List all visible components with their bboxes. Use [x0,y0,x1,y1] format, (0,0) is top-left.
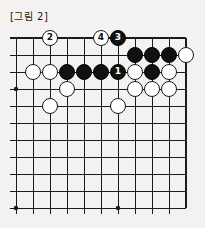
star-point [14,87,18,91]
star-point [116,206,120,210]
stone-number: 1 [115,67,121,76]
stone-number: 2 [47,33,53,42]
go-board[interactable]: 2431 [0,0,205,228]
figure-container: [그림 2] 2431 [0,0,205,228]
stone-number: 4 [98,33,104,42]
stone-number: 3 [115,33,121,42]
star-point [14,206,18,210]
